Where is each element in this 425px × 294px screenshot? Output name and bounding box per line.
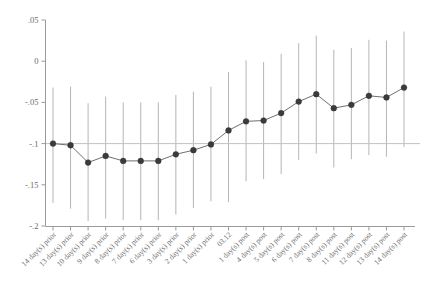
data-point-marker [103,153,109,159]
data-point-marker [85,160,91,166]
data-point-marker [261,118,267,124]
confidence-interval-group [53,32,404,222]
y-axis-tick-label: -.2 [29,221,38,231]
data-point-marker [384,95,390,101]
data-point-marker [401,85,407,91]
data-point-marker [120,158,126,164]
data-point-marker [138,158,144,164]
data-point-marker [173,151,179,157]
y-tick-label-group: .050-.05-.1-.15-.2 [25,15,38,231]
data-point-marker [278,110,284,116]
x-axis-group [46,227,416,231]
data-point-marker [331,105,337,111]
data-point-marker [50,141,56,147]
event-study-chart: .050-.05-.1-.15-.2 14 day(s) prior13 day… [0,0,425,294]
plot-canvas: .050-.05-.1-.15-.2 14 day(s) prior13 day… [0,0,425,294]
data-point-marker [296,99,302,105]
y-axis-tick-label: -.1 [29,139,38,149]
data-point-marker [243,118,249,124]
data-point-marker [208,142,214,148]
data-point-marker [313,91,319,97]
data-point-marker [366,93,372,99]
data-point-marker [226,128,232,134]
y-axis-tick-label: -.15 [25,180,38,190]
y-axis-group [42,20,46,226]
data-point-marker [191,147,197,153]
x-tick-label-group: 14 day(s) prior13 day(s) prior10 day(s) … [20,229,410,268]
y-axis-tick-label: 0 [34,56,38,66]
data-point-marker [348,102,354,108]
y-axis-tick-label: .05 [28,15,39,25]
data-point-marker [155,158,161,164]
data-point-marker [68,142,74,148]
y-axis-tick-label: -.05 [25,97,38,107]
